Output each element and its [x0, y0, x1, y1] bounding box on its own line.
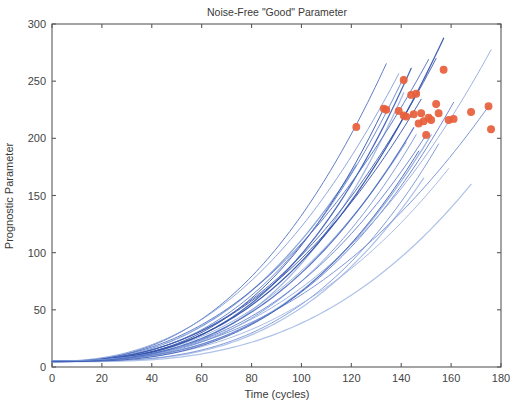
endpoint-marker — [485, 103, 492, 110]
series-line — [52, 184, 471, 361]
plot-box-frame — [52, 24, 501, 367]
y-tick-label: 50 — [34, 304, 46, 316]
y-tick-label: 0 — [40, 361, 46, 373]
x-tick-label: 180 — [492, 372, 510, 384]
endpoint-marker — [413, 90, 420, 97]
endpoint-marker — [395, 107, 402, 114]
y-tick-label: 300 — [28, 18, 46, 30]
endpoint-marker — [440, 66, 447, 73]
endpoint-marker — [418, 110, 425, 117]
prognostic-parameter-chart: Noise-Free "Good" Parameter 020406080100… — [0, 0, 514, 405]
x-tick-label: 80 — [245, 372, 257, 384]
x-axis-title: Time (cycles) — [245, 388, 310, 400]
chart-title-group: Noise-Free "Good" Parameter — [207, 6, 347, 18]
x-tick-labels: 020406080100120140160180 — [49, 372, 510, 384]
y-tick-label: 200 — [28, 132, 46, 144]
endpoint-marker — [353, 124, 360, 131]
y-tick-label: 100 — [28, 247, 46, 259]
series-line — [52, 106, 489, 361]
endpoint-marker — [383, 106, 390, 113]
series-line — [52, 109, 384, 361]
endpoint-marker — [415, 120, 422, 127]
series-line — [52, 68, 411, 361]
x-tick-label: 0 — [49, 372, 55, 384]
x-tick-label: 140 — [392, 372, 410, 384]
y-tick-label: 250 — [28, 75, 46, 87]
series-line — [52, 64, 386, 362]
series-lines — [52, 38, 491, 362]
endpoint-marker — [403, 113, 410, 120]
axis-ticks — [52, 24, 501, 367]
endpoint-marker — [423, 132, 430, 139]
endpoint-marker — [435, 110, 442, 117]
series-line — [52, 50, 491, 361]
endpoint-marker — [428, 117, 435, 124]
x-tick-label: 60 — [196, 372, 208, 384]
x-tick-label: 100 — [292, 372, 310, 384]
y-axis-title: Prognostic Parameter — [3, 142, 15, 249]
y-tick-label: 150 — [28, 190, 46, 202]
endpoint-marker — [433, 101, 440, 108]
series-line — [52, 144, 439, 361]
axis-frame — [52, 24, 501, 367]
x-tick-label: 160 — [442, 372, 460, 384]
chart-title: Noise-Free "Good" Parameter — [207, 6, 347, 18]
endpoint-marker — [468, 109, 475, 116]
figure-panel: Noise-Free "Good" Parameter 020406080100… — [0, 0, 514, 405]
x-tick-label: 120 — [342, 372, 360, 384]
series-line — [52, 178, 424, 361]
endpoint-marker — [488, 126, 495, 133]
y-tick-labels: 050100150200250300 — [28, 18, 46, 373]
endpoint-marker — [450, 116, 457, 123]
x-tick-label: 20 — [96, 372, 108, 384]
endpoint-marker — [400, 77, 407, 84]
endpoint-marker — [410, 111, 417, 118]
x-tick-label: 40 — [146, 372, 158, 384]
